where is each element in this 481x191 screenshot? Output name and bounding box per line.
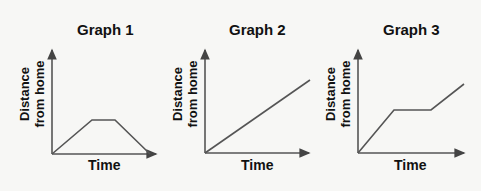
- graph-3-title: Graph 3: [383, 21, 440, 38]
- data-line: [52, 120, 150, 154]
- graph-2-ylabel-2: from home: [186, 54, 200, 134]
- graph-3: [358, 50, 464, 153]
- graph-3-ylabel-2: from home: [339, 54, 353, 134]
- graph-1-ylabel-2: from home: [33, 54, 47, 134]
- graph-1-ylabel: Distance: [18, 54, 32, 134]
- graph-1: [52, 50, 156, 154]
- graph-3-xlabel: Time: [394, 157, 426, 173]
- graph-3-ylabel: Distance: [324, 54, 338, 134]
- graph-2-title: Graph 2: [229, 21, 286, 38]
- graph-2-ylabel: Distance: [171, 54, 185, 134]
- graph-1-title: Graph 1: [77, 21, 134, 38]
- graph-2: [205, 50, 310, 153]
- graph-2-xlabel: Time: [241, 157, 273, 173]
- graph-1-xlabel: Time: [88, 157, 120, 173]
